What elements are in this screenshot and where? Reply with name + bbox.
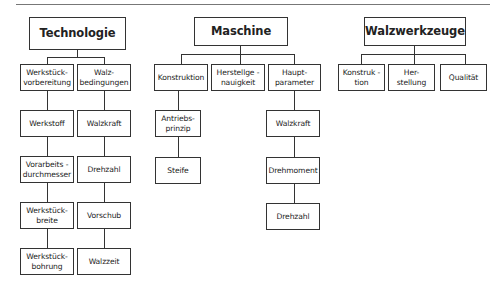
connector — [47, 183, 48, 202]
connector — [47, 57, 48, 64]
connector — [104, 229, 105, 248]
connector — [47, 57, 105, 58]
connector — [294, 137, 295, 157]
node-herstellgenauigkeit: Herstellge - nauigkeit — [211, 64, 265, 91]
node-walzbedingungen: Walz- bedingungen — [77, 64, 131, 91]
connector — [77, 50, 78, 57]
connector — [47, 91, 48, 110]
node-steife: Steife — [155, 157, 201, 184]
node-maschine: Maschine — [194, 17, 288, 46]
connector — [294, 91, 295, 110]
node-hauptparameter: Haupt- parameter — [268, 64, 321, 91]
connector — [104, 91, 105, 110]
connector — [104, 57, 105, 64]
connector — [361, 54, 362, 64]
node-werkstueckbreite: Werkstück- breite — [20, 202, 74, 229]
connector — [240, 54, 241, 64]
node-walzkraft: Walzkraft — [77, 110, 131, 137]
node-werkstoff: Werkstoff — [20, 110, 74, 137]
node-drehmoment: Drehmoment — [266, 157, 320, 184]
connector — [465, 54, 466, 64]
node-konstruktion: Konstruktion — [154, 64, 208, 91]
node-werkstueckvorbereitung: Werkstück- vorbereitung — [20, 64, 74, 91]
node-walzwerkzeuge: Walzwerkzeuge — [364, 17, 466, 46]
connector — [178, 137, 179, 157]
connector — [414, 54, 415, 64]
node-antriebsprinzip: Antriebs- prinzip — [155, 110, 201, 137]
connector — [181, 54, 295, 55]
connector — [240, 46, 241, 54]
node-walzzeit: Walzzeit — [77, 248, 131, 275]
header-rule — [16, 4, 490, 5]
node-konstruktion-werkzeug: Konstruk - tion — [338, 64, 385, 91]
node-walzkraft-maschine: Walzkraft — [266, 110, 320, 137]
node-vorschub: Vorschub — [77, 202, 131, 229]
connector — [47, 229, 48, 248]
connector — [294, 54, 295, 64]
connector — [181, 54, 182, 64]
connector — [178, 91, 179, 110]
node-qualitaet: Qualität — [440, 64, 487, 91]
node-herstellung: Her- stellung — [388, 64, 435, 91]
node-drehzahl: Drehzahl — [77, 156, 131, 183]
node-vorarbeitsdurchmesser: Vorarbeits - durchmesser — [20, 156, 74, 183]
node-technologie: Technologie — [29, 17, 126, 50]
connector — [294, 184, 295, 203]
connector — [414, 46, 415, 54]
connector — [47, 137, 48, 156]
connector — [104, 183, 105, 202]
node-drehzahl-maschine: Drehzahl — [266, 203, 320, 230]
connector — [361, 54, 465, 55]
node-werkstueckbohrung: Werkstück- bohrung — [20, 248, 74, 275]
connector — [104, 137, 105, 156]
